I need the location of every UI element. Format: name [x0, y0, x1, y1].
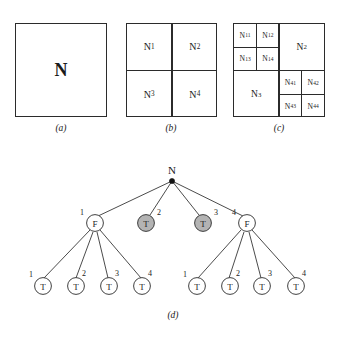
tree-node-f4-index: 4: [232, 208, 236, 217]
tree-node-f1-index: 1: [80, 208, 84, 217]
tree-node-t2-index: 2: [157, 208, 161, 217]
tree-leaf-left-1-label: T: [40, 282, 46, 292]
tree-leaf-left-4-label: T: [139, 282, 145, 292]
tree-root-label: N: [168, 164, 176, 176]
panel-c-cell-n2-base: N: [297, 42, 304, 52]
tree-node-f4[interactable]: F 4: [232, 208, 255, 231]
tree-leaf-left-4-index: 4: [148, 269, 152, 278]
tree-leaf-right-3-index: 3: [268, 269, 272, 278]
panel-c-cell-n43-sub: 43: [291, 103, 296, 109]
panel-b-cell-n2: N2: [173, 24, 217, 70]
panel-c-cell-n12: N12: [257, 24, 278, 47]
edge-f4-to-leaf1: [198, 230, 241, 278]
tree-leaf-left-2[interactable]: T 2: [68, 269, 86, 294]
panel-b: N1 N2 N3 N4: [126, 23, 217, 117]
panel-row: N (a) N1 N2 N3 N4 (b): [0, 0, 346, 140]
panel-b-cell-n3: N3: [127, 71, 171, 117]
panel-c-caption: (c): [259, 123, 299, 133]
panel-c-cell-n41: N41: [280, 71, 302, 94]
panel-c-cell-n13: N13: [234, 48, 256, 70]
quadtree-figure: N (a) N1 N2 N3 N4 (b): [0, 0, 346, 337]
tree-leaf-right-1-label: T: [194, 282, 200, 292]
tree-diagram: N F 1 T 2 T 3 F 4: [0, 150, 346, 337]
tree-edges-left-subtree: [44, 230, 141, 278]
panel-c: N11 N12 N13 N14 N2 N3 N41: [233, 23, 325, 117]
panel-c-cell-n2: N2: [280, 24, 324, 70]
tree-leaf-left-3[interactable]: T 3: [101, 269, 119, 294]
panel-c-cell-n42-sub: 42: [313, 80, 318, 86]
edge-f1-to-leaf3: [97, 232, 108, 278]
panel-b-cell-n2-sub: 2: [197, 43, 201, 51]
panel-c-cell-n44: N44: [302, 95, 324, 117]
tree-edges-level1: [96, 181, 245, 217]
panel-c-cell-n11-sub: 11: [245, 32, 250, 38]
panel-c-cell-n43: N43: [280, 95, 302, 117]
panel-a-root-label: N: [16, 24, 106, 116]
tree-leaf-right-3[interactable]: T 3: [254, 269, 272, 294]
tree-leaf-right-4-label: T: [293, 282, 299, 292]
panel-c-cell-n11: N11: [234, 24, 256, 47]
tree-leaf-right-3-label: T: [259, 282, 265, 292]
panel-a-caption: (a): [41, 123, 81, 133]
panel-a: N: [15, 23, 107, 117]
tree-root-node[interactable]: [169, 178, 174, 183]
panel-c-cell-n3: N3: [234, 71, 278, 117]
panel-c-cell-n41-sub: 41: [291, 80, 296, 86]
panel-c-cell-n12-sub: 12: [268, 32, 273, 38]
tree-leaf-left-3-index: 3: [115, 269, 119, 278]
tree-leaf-left-2-index: 2: [82, 269, 86, 278]
tree-leaf-left-2-label: T: [73, 282, 79, 292]
panel-b-cell-n1-sub: 1: [151, 43, 155, 51]
panel-c-cell-n3-base: N: [251, 89, 258, 99]
edge-root-to-t3: [172, 181, 199, 215]
tree-leaf-left-3-label: T: [106, 282, 112, 292]
tree-leaf-right-2-index: 2: [236, 269, 240, 278]
panel-b-cell-n1-base: N: [144, 41, 151, 52]
panel-b-cell-n3-base: N: [144, 89, 151, 100]
panel-c-cell-n14: N14: [257, 48, 278, 70]
panel-c-cell-n3-sub: 3: [258, 91, 261, 98]
tree-panel: N F 1 T 2 T 3 F 4: [0, 150, 346, 337]
panel-c-cell-n42: N42: [302, 71, 324, 94]
panel-c-cell-n2-sub: 2: [304, 43, 307, 50]
tree-node-f1-label: F: [92, 219, 97, 229]
tree-leaf-right-1-index: 1: [183, 270, 187, 279]
panel-b-cell-n2-base: N: [189, 41, 196, 52]
tree-leaf-right-4-index: 4: [302, 269, 306, 278]
tree-caption: (d): [153, 310, 193, 320]
tree-leaf-right-2-label: T: [227, 282, 233, 292]
panel-c-cell-n13-sub: 13: [245, 56, 250, 62]
panel-b-cell-n4-sub: 4: [197, 90, 201, 98]
tree-leaf-left-1-index: 1: [29, 270, 33, 279]
tree-node-f1[interactable]: F 1: [80, 208, 103, 231]
tree-node-t3[interactable]: T 3: [195, 208, 218, 231]
panel-c-cell-n44-sub: 44: [313, 103, 318, 109]
panel-b-cell-n1: N1: [127, 24, 171, 70]
panel-b-caption: (b): [151, 123, 191, 133]
panel-b-cell-n3-sub: 3: [151, 90, 155, 98]
panel-c-cell-n14-sub: 14: [268, 56, 273, 62]
tree-node-t3-index: 3: [214, 208, 218, 217]
panel-b-cell-n4: N4: [173, 71, 217, 117]
tree-node-t2-label: T: [143, 219, 149, 229]
tree-edges-right-subtree: [198, 230, 295, 278]
panel-b-cell-n4-base: N: [189, 89, 196, 100]
tree-node-f4-label: F: [244, 219, 249, 229]
edge-f4-to-leaf3: [249, 232, 261, 278]
tree-node-t3-label: T: [200, 219, 206, 229]
edge-f4-to-leaf4: [252, 230, 295, 278]
tree-node-t2[interactable]: T 2: [138, 208, 161, 231]
